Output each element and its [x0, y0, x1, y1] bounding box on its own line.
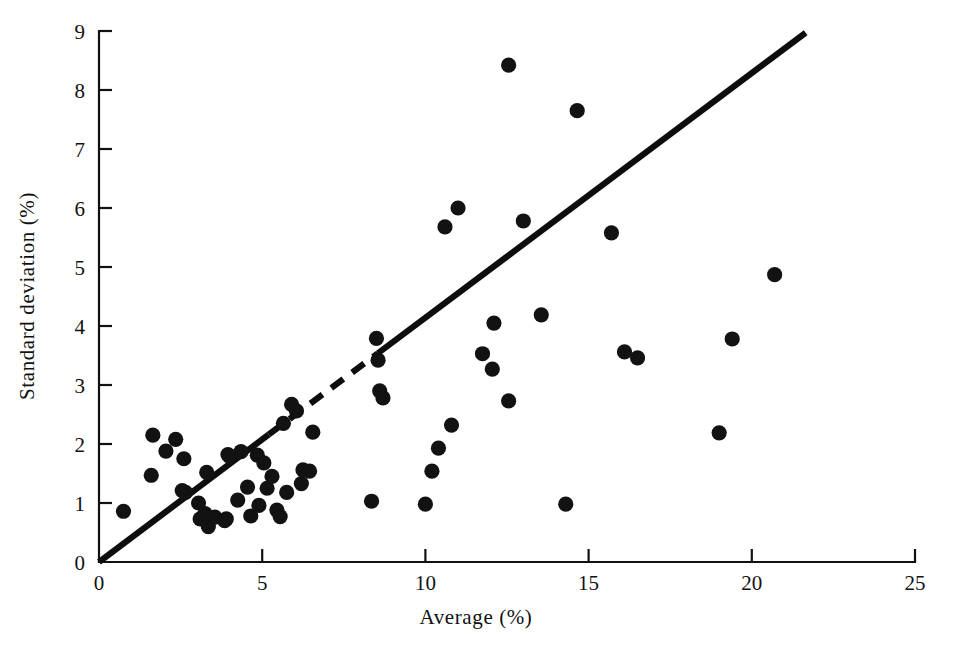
data-point [230, 492, 245, 507]
data-point [712, 425, 727, 440]
data-point [251, 498, 266, 513]
data-point [370, 353, 385, 368]
data-point [144, 468, 159, 483]
data-point [369, 331, 384, 346]
data-point [450, 200, 465, 215]
data-point [233, 444, 248, 459]
data-point [289, 403, 304, 418]
data-point [630, 350, 645, 365]
data-point [219, 511, 234, 526]
data-point [279, 485, 294, 500]
data-point [534, 307, 549, 322]
axis-labels-group: Average (%) Standard deviation (%) [15, 192, 532, 629]
data-point [725, 331, 740, 346]
data-point [176, 451, 191, 466]
y-tick-label-9: 9 [75, 20, 86, 44]
data-point [437, 219, 452, 234]
data-point [294, 476, 309, 491]
y-tick-label-2: 2 [75, 433, 86, 457]
data-point [418, 497, 433, 512]
x-tick-label-0: 0 [94, 571, 105, 595]
y-tick-label-5: 5 [75, 256, 86, 280]
y-tick-label-6: 6 [75, 197, 86, 221]
data-point [558, 497, 573, 512]
trendline-group [99, 33, 806, 562]
data-point [444, 418, 459, 433]
x-tick-label-25: 25 [905, 571, 926, 595]
x-tick-label-10: 10 [415, 571, 436, 595]
data-point [116, 504, 131, 519]
data-point [424, 464, 439, 479]
data-point [431, 441, 446, 456]
scatter-plot-figure: 05101520250123456789 Average (%) Standar… [0, 0, 953, 652]
plot-canvas: 05101520250123456789 Average (%) Standar… [0, 0, 953, 652]
y-tick-label-0: 0 [75, 551, 86, 575]
y-tick-label-7: 7 [75, 138, 86, 162]
data-point [168, 432, 183, 447]
y-tick-label-1: 1 [75, 492, 86, 516]
data-point [305, 425, 320, 440]
trendline-upper-segment [378, 33, 806, 353]
data-point [364, 494, 379, 509]
data-point [486, 315, 501, 330]
data-point [475, 346, 490, 361]
data-point [264, 469, 279, 484]
data-point [199, 465, 214, 480]
y-tick-label-8: 8 [75, 79, 86, 103]
data-point [604, 225, 619, 240]
x-tick-label-15: 15 [578, 571, 599, 595]
data-point [485, 361, 500, 376]
data-points-group [116, 58, 782, 535]
data-point [570, 103, 585, 118]
data-point [767, 267, 782, 282]
data-point [145, 428, 160, 443]
data-point [617, 344, 632, 359]
data-point [501, 58, 516, 73]
data-point [256, 455, 271, 470]
data-point [273, 509, 288, 524]
data-point [240, 479, 255, 494]
x-tick-label-5: 5 [257, 571, 268, 595]
data-point [178, 485, 193, 500]
data-point [276, 416, 291, 431]
data-point [158, 443, 173, 458]
y-tick-label-4: 4 [75, 315, 86, 339]
y-tick-label-3: 3 [75, 374, 86, 398]
data-point [375, 390, 390, 405]
data-point [501, 393, 516, 408]
x-tick-label-20: 20 [741, 571, 762, 595]
y-axis-title: Standard deviation (%) [15, 192, 39, 400]
data-point [516, 213, 531, 228]
x-axis-title: Average (%) [420, 605, 533, 629]
data-point [302, 464, 317, 479]
